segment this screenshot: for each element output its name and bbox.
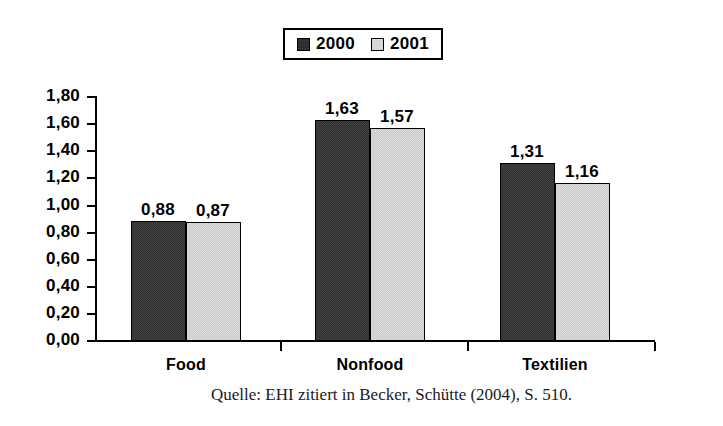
value-label-nonfood-2001: 1,57 (364, 107, 430, 127)
x-category-label-textilien: Textilien (485, 356, 625, 374)
x-category-label-food: Food (116, 356, 256, 374)
bar-textilien-2000 (500, 163, 555, 341)
x-tick-mark (280, 342, 282, 351)
value-label-textilien-2001: 1,16 (549, 162, 615, 182)
y-tick-label-080: 0,80 (10, 222, 80, 242)
bar-food-2001 (186, 222, 241, 341)
y-tick-label-140: 1,40 (10, 140, 80, 160)
y-tick-label-180: 1,80 (10, 86, 80, 106)
source-note: Quelle: EHI zitiert in Becker, Schütte (… (0, 385, 723, 405)
y-tick-mark (87, 286, 96, 288)
x-tick-mark (467, 342, 469, 351)
y-tick-mark (87, 177, 96, 179)
bar-nonfood-2000 (315, 120, 370, 341)
y-tick-label-060: 0,60 (10, 249, 80, 269)
x-tick-mark (654, 342, 656, 351)
plot-area: 1,80 1,60 1,40 1,20 1,00 0,80 0,60 0,40 … (0, 0, 723, 426)
y-tick-mark (87, 232, 96, 234)
y-tick-mark (87, 259, 96, 261)
y-tick-label-120: 1,20 (10, 167, 80, 187)
y-tick-mark (87, 205, 96, 207)
bar-nonfood-2001 (370, 128, 425, 341)
bar-textilien-2001 (555, 183, 610, 341)
y-tick-mark (87, 340, 96, 342)
y-tick-mark (87, 123, 96, 125)
y-tick-label-020: 0,20 (10, 303, 80, 323)
y-tick-label-100: 1,00 (10, 195, 80, 215)
y-tick-mark (87, 313, 96, 315)
bar-food-2000 (131, 221, 186, 341)
y-tick-label-040: 0,40 (10, 276, 80, 296)
y-tick-label-160: 1,60 (10, 113, 80, 133)
y-tick-label-000: 0,00 (10, 330, 80, 350)
y-tick-mark (87, 150, 96, 152)
chart-figure: 2000 2001 1,80 1,60 1,40 1,20 1,00 0,80 … (0, 0, 723, 426)
y-tick-mark (87, 96, 96, 98)
value-label-food-2001: 0,87 (180, 201, 246, 221)
x-category-label-nonfood: Nonfood (300, 356, 440, 374)
y-axis-line (95, 96, 97, 341)
value-label-textilien-2000: 1,31 (494, 142, 560, 162)
